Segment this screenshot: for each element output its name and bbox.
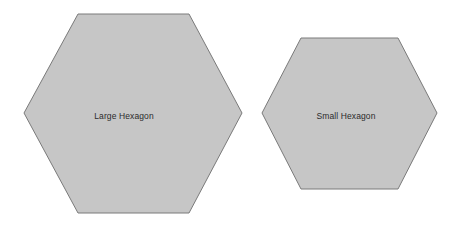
small-hexagon-label: Small Hexagon bbox=[317, 112, 376, 121]
large-hexagon-label: Large Hexagon bbox=[94, 112, 153, 121]
shapes-svg bbox=[0, 0, 458, 226]
shape-canvas: Large Hexagon Small Hexagon bbox=[0, 0, 458, 226]
